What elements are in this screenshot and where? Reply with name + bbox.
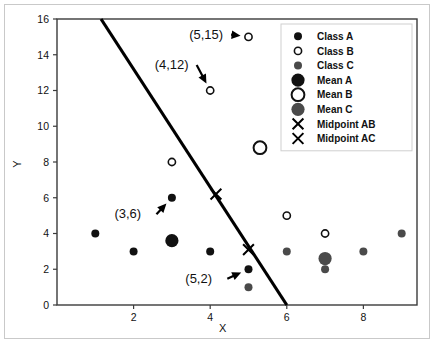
x-tick-label: 8 bbox=[360, 311, 366, 323]
legend-label-class-a: Class A bbox=[317, 31, 353, 42]
y-tick-label: 6 bbox=[43, 192, 49, 204]
annotation-label: (5,15) bbox=[189, 27, 223, 42]
y-axis-title: Y bbox=[11, 160, 23, 167]
y-tick-label: 14 bbox=[37, 49, 49, 61]
data-point-class-b bbox=[245, 33, 252, 40]
legend-marker-class-c bbox=[294, 62, 302, 70]
data-point-mean-b bbox=[254, 141, 267, 154]
data-point-class-a bbox=[168, 194, 176, 202]
data-point-class-a bbox=[91, 230, 99, 238]
legend-label-midpoint-ab: Midpoint AB bbox=[317, 119, 376, 130]
annotation-label: (3,6) bbox=[114, 206, 141, 221]
legend-marker-mean-b bbox=[292, 88, 305, 101]
decision-boundary-line bbox=[101, 19, 287, 305]
legend-marker-class-a bbox=[294, 32, 302, 40]
data-point-mean-a bbox=[165, 234, 178, 247]
data-point-class-a bbox=[244, 265, 252, 273]
y-tick-label: 4 bbox=[43, 227, 49, 239]
data-point-class-b bbox=[321, 230, 328, 237]
y-tick-label: 10 bbox=[37, 120, 49, 132]
data-point-mean-c bbox=[318, 252, 331, 265]
data-point-class-c bbox=[283, 247, 291, 255]
data-point-class-a bbox=[206, 247, 214, 255]
data-point-class-b bbox=[207, 87, 214, 94]
data-point-class-c bbox=[321, 265, 329, 273]
x-tick-label: 4 bbox=[207, 311, 213, 323]
legend-label-mean-c: Mean C bbox=[317, 104, 353, 115]
data-point-class-b bbox=[168, 158, 175, 165]
scatter-plot-figure: 02468101214162468(5,15)(4,12)(3,6)(5,2)C… bbox=[0, 0, 436, 345]
legend-label-midpoint-ac: Midpoint AC bbox=[317, 133, 376, 144]
x-tick-label: 2 bbox=[131, 311, 137, 323]
y-tick-label: 0 bbox=[43, 299, 49, 311]
y-tick-label: 8 bbox=[43, 156, 49, 168]
x-axis-title: X bbox=[219, 322, 226, 334]
annotation-label: (4,12) bbox=[155, 57, 189, 72]
data-point-class-c bbox=[359, 247, 367, 255]
x-tick-label: 6 bbox=[284, 311, 290, 323]
plot-canvas: 02468101214162468(5,15)(4,12)(3,6)(5,2)C… bbox=[0, 0, 436, 345]
y-tick-label: 12 bbox=[37, 84, 49, 96]
legend-marker-mean-a bbox=[291, 74, 304, 87]
legend-panel bbox=[281, 24, 412, 151]
legend-label-mean-a: Mean A bbox=[317, 75, 352, 86]
y-tick-label: 2 bbox=[43, 263, 49, 275]
legend-marker-mean-c bbox=[291, 103, 304, 116]
data-point-class-b bbox=[283, 212, 290, 219]
y-tick-label: 16 bbox=[37, 13, 49, 25]
data-point-class-c bbox=[244, 283, 252, 291]
legend-label-class-c: Class C bbox=[317, 60, 354, 71]
data-point-class-c bbox=[398, 230, 406, 238]
annotation-label: (5,2) bbox=[185, 271, 212, 286]
legend-label-class-b: Class B bbox=[317, 46, 354, 57]
annotation-arrow-head bbox=[231, 31, 240, 39]
legend-marker-class-b bbox=[294, 47, 301, 54]
data-point-class-a bbox=[130, 247, 138, 255]
legend-label-mean-b: Mean B bbox=[317, 89, 353, 100]
